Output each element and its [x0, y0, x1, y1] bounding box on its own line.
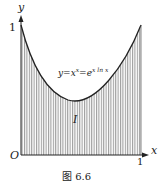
figure: y 1 O x 1 y=xx=ex ln x I 图 6.6: [0, 0, 168, 191]
y-axis-label: y: [18, 2, 24, 13]
origin-label: O: [10, 150, 19, 161]
curve-label-mid: =e: [79, 68, 92, 78]
y-axis-arrow-icon: [19, 15, 24, 22]
area-label: I: [73, 114, 77, 125]
x-axis-label: x: [151, 145, 157, 156]
curve-label-exp2: x ln x: [92, 66, 108, 73]
x-tick-1: 1: [137, 157, 143, 167]
figure-caption: 图 6.6: [62, 172, 91, 182]
curve-label: y=xx=ex ln x: [58, 67, 108, 78]
area-hatching: [21, 20, 142, 155]
curve-label-prefix: y=x: [58, 68, 76, 78]
y-tick-1: 1: [9, 22, 16, 33]
